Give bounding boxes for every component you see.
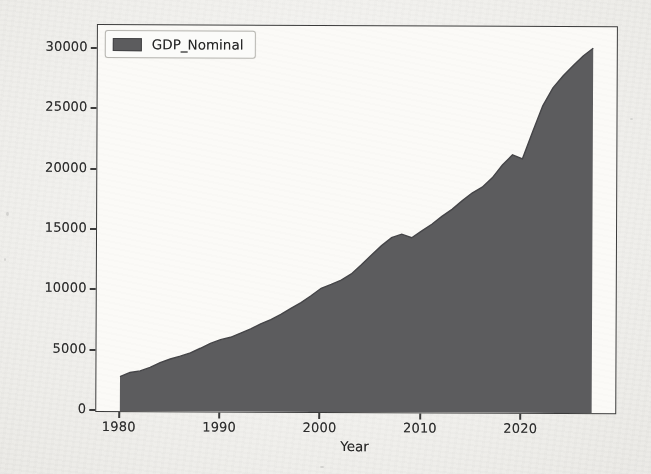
y-tick-mark [90, 349, 96, 351]
y-tick-mark [91, 107, 97, 109]
x-tick-mark [218, 413, 220, 419]
y-tick-mark [90, 288, 96, 290]
y-tick-label: 20000 [0, 159, 87, 174]
axes: GDP_Nominal [95, 24, 618, 414]
scan-speckle [4, 258, 6, 261]
x-tick-mark [519, 414, 521, 420]
figure: GDP_Nominal 0500010000150002000025000300… [0, 0, 651, 474]
x-tick-label: 2010 [390, 420, 450, 435]
x-tick-mark [319, 413, 321, 419]
x-tick-label: 2000 [289, 420, 349, 435]
plot-rotor: GDP_Nominal 0500010000150002000025000300… [0, 0, 651, 474]
area-polygon [120, 46, 593, 413]
x-tick-mark [419, 413, 421, 419]
y-tick-mark [90, 228, 96, 230]
y-tick-mark [90, 168, 96, 170]
y-tick-mark [89, 409, 95, 411]
legend-label: GDP_Nominal [152, 36, 244, 52]
legend: GDP_Nominal [105, 30, 256, 59]
y-tick-label: 0 [0, 401, 86, 416]
x-axis-ticks: 19801990200020102020 [1, 0, 651, 1]
x-tick-label: 2020 [490, 421, 550, 436]
x-axis-label: Year [95, 437, 614, 455]
x-tick-mark [118, 412, 120, 418]
y-tick-label: 15000 [0, 220, 87, 235]
scan-speckle [630, 118, 633, 120]
scan-speckle [320, 466, 324, 468]
y-tick-label: 30000 [1, 39, 88, 54]
x-tick-label: 1990 [189, 419, 249, 434]
x-tick-label: 1980 [89, 419, 149, 434]
area-series [96, 25, 617, 413]
y-axis-ticks: 050001000015000200002500030000 [1, 0, 651, 1]
legend-swatch [113, 38, 142, 51]
y-tick-mark [91, 47, 97, 49]
y-tick-label: 10000 [0, 280, 87, 295]
y-tick-label: 25000 [1, 99, 88, 114]
y-tick-label: 5000 [0, 340, 87, 355]
scan-speckle [6, 212, 9, 216]
